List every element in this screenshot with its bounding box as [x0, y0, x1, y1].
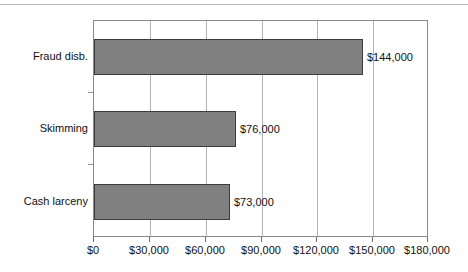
bar-value-fraud-disb: $144,000	[363, 39, 413, 75]
xaxis-label-120000: $120,000	[293, 244, 339, 256]
horizontal-bar-chart: Fraud disb. Skimming Cash larceny $144,0…	[0, 0, 468, 272]
xaxis-tick-90000	[261, 237, 262, 242]
xaxis-label-30000: $30,000	[129, 244, 169, 256]
bar-fraud-disb[interactable]	[94, 39, 363, 75]
xaxis-tick-60000	[205, 237, 206, 242]
xaxis-label-60000: $60,000	[185, 244, 225, 256]
xaxis-tick-0	[93, 237, 94, 242]
category-label-skimming: Skimming	[40, 110, 88, 146]
bar-skimming[interactable]	[94, 111, 236, 147]
bar-value-skimming: $76,000	[236, 111, 280, 147]
xaxis-tick-30000	[149, 237, 150, 242]
xaxis-tick-180000	[427, 237, 428, 242]
xaxis-tick-150000	[372, 237, 373, 242]
plot-area: $144,000 $76,000 $73,000	[93, 20, 428, 237]
xaxis-label-90000: $90,000	[241, 244, 281, 256]
category-label-cash-larceny: Cash larceny	[24, 183, 88, 219]
xaxis-label-180000: $180,000	[404, 244, 450, 256]
bar-cash-larceny[interactable]	[94, 184, 230, 220]
bar-row: $73,000	[94, 166, 427, 238]
xaxis-label-150000: $150,000	[349, 244, 395, 256]
category-label-fraud-disb: Fraud disb.	[33, 38, 88, 74]
bar-value-cash-larceny: $73,000	[230, 184, 274, 220]
bar-row: $76,000	[94, 93, 427, 165]
xaxis-label-0: $0	[87, 244, 99, 256]
xaxis-tick-120000	[316, 237, 317, 242]
bar-row: $144,000	[94, 21, 427, 93]
